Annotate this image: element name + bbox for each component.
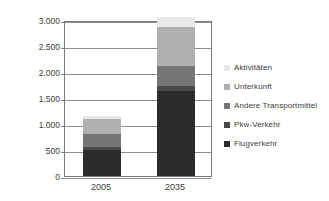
y-axis-tick-label: 3.000 [18, 17, 60, 25]
bars-layer [65, 22, 211, 176]
legend-swatch-icon [224, 103, 230, 109]
legend-item-label: Flugverkehr [234, 139, 277, 148]
legend-swatch-icon [224, 141, 230, 147]
bar-stack [157, 17, 195, 176]
chart-legend: AktivitätenUnterkunftAndere Transportmit… [224, 58, 328, 153]
y-axis-tick-labels: 05001.0001.5002.0002.5003.000 [18, 21, 60, 177]
legend-swatch-icon [224, 122, 230, 128]
legend-item[interactable]: Aktivitäten [224, 58, 328, 77]
legend-item[interactable]: Flugverkehr [224, 134, 328, 153]
y-axis-tick-label: 1.500 [18, 95, 60, 103]
bar-segment [157, 91, 195, 176]
y-axis-tickmark [61, 178, 65, 179]
legend-item[interactable]: Andere Transportmittel [224, 96, 328, 115]
y-axis-tick-label: 500 [18, 147, 60, 155]
bar-segment [157, 17, 195, 27]
legend-item-label: Pkw-Verkehr [234, 120, 280, 129]
legend-item[interactable]: Unterkunft [224, 77, 328, 96]
stacked-bar-chart: Mio. t CO2 05001.0001.5002.0002.5003.000… [0, 0, 329, 201]
bar-segment [157, 27, 195, 66]
legend-swatch-icon [224, 65, 230, 71]
y-axis-tick-label: 2.500 [18, 43, 60, 51]
legend-swatch-icon [224, 84, 230, 90]
y-axis-tick-label: 1.000 [18, 121, 60, 129]
y-axis-tick-label: 0 [18, 173, 60, 181]
legend-item-label: Andere Transportmittel [234, 101, 317, 110]
legend-item-label: Unterkunft [234, 82, 272, 91]
legend-item[interactable]: Pkw-Verkehr [224, 115, 328, 134]
y-axis-tick-label: 2.000 [18, 69, 60, 77]
plot-area [64, 21, 212, 177]
x-axis-tick-label: 2035 [147, 181, 203, 193]
bar-segment [83, 134, 121, 147]
x-axis-tick-labels: 20052035 [64, 181, 212, 195]
gridline [65, 178, 211, 179]
bar-segment [157, 66, 195, 85]
bar-segment [83, 119, 121, 135]
bar-segment [83, 150, 121, 176]
x-axis-tick-label: 2005 [73, 181, 129, 193]
bar-stack [83, 116, 121, 176]
legend-item-label: Aktivitäten [234, 63, 272, 72]
